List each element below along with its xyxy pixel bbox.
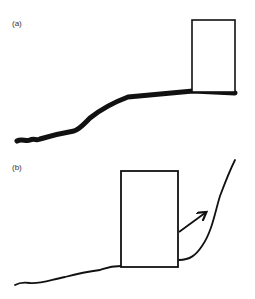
thick-slope-line bbox=[17, 91, 235, 141]
diagram-canvas bbox=[0, 0, 255, 299]
ground-line-left bbox=[15, 266, 121, 285]
block-rectangle bbox=[192, 20, 235, 92]
direction-arrow-icon bbox=[179, 213, 205, 232]
panel-a bbox=[17, 20, 235, 141]
panel-b bbox=[15, 160, 235, 285]
block-rectangle bbox=[121, 171, 178, 267]
rising-curve-right bbox=[179, 160, 235, 260]
